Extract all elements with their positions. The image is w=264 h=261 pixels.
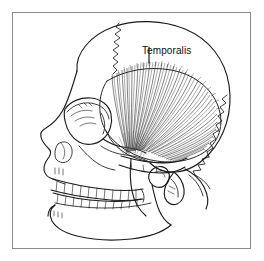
figure-root: Temporalis (0, 0, 264, 261)
skull-illustration (13, 13, 250, 248)
figure-frame: Temporalis (12, 12, 251, 249)
mastoid-and-meatus (164, 169, 208, 209)
maxilla-upper-teeth (51, 179, 144, 202)
lower-teeth-row (53, 193, 143, 209)
nasal-aperture (55, 142, 72, 163)
temporalis-label: Temporalis (142, 45, 191, 57)
frontal-facial-profile (41, 71, 77, 184)
